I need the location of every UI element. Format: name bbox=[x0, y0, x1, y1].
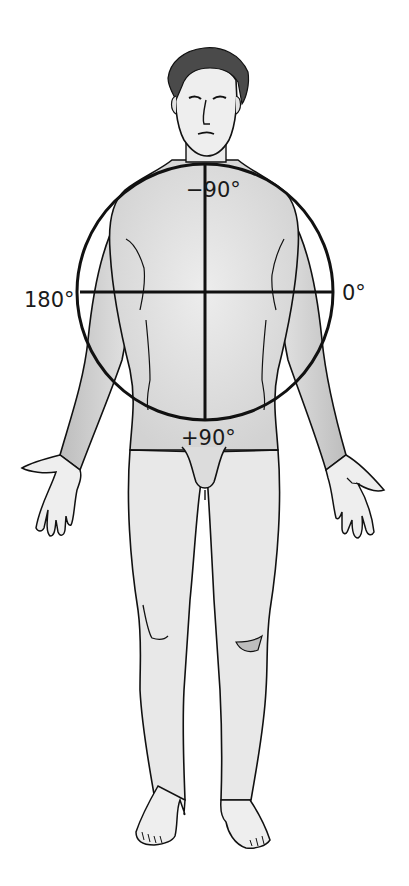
head bbox=[168, 48, 249, 156]
left-leg bbox=[128, 450, 204, 800]
right-leg bbox=[206, 450, 280, 800]
right-foot bbox=[221, 800, 270, 848]
left-hand bbox=[22, 455, 81, 536]
label-top-minus-90: −90° bbox=[186, 180, 241, 201]
angle-diagram: −90° 0° 180° +90° bbox=[0, 0, 409, 886]
label-right-0: 0° bbox=[342, 283, 366, 304]
label-left-180: 180° bbox=[24, 290, 75, 311]
label-bottom-plus-90: +90° bbox=[181, 428, 236, 449]
right-hand bbox=[326, 455, 384, 538]
